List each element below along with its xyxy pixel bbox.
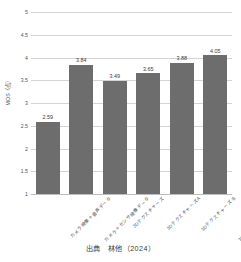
bar-slot: 3.49 (98, 12, 131, 194)
y-tick-label: 2 (25, 146, 28, 152)
y-tick-label: 1.5 (21, 168, 28, 174)
bar-slot: 3.88 (165, 12, 198, 194)
bar[interactable] (103, 81, 127, 194)
bar-value-label: 3.65 (132, 66, 165, 72)
y-tick-label: 4 (25, 55, 28, 61)
y-tick-label: 3.5 (21, 77, 28, 83)
y-tick-label: 5 (25, 9, 28, 15)
bar-slot: 3.84 (64, 12, 97, 194)
y-tick-label: 1 (25, 191, 28, 197)
bar[interactable] (170, 63, 194, 194)
plot-area: 11.522.533.544.55 2.593.843.493.653.884.… (31, 12, 232, 194)
source-caption: 出典 林他（2024） (0, 243, 241, 253)
bar-slot: 4.05 (199, 12, 232, 194)
bar[interactable] (203, 55, 227, 194)
bar-value-label: 4.05 (199, 48, 232, 54)
y-axis-title: MOS（点） (4, 68, 11, 116)
bars-layer: 2.593.843.493.653.884.05 (31, 12, 232, 194)
bar[interactable] (36, 122, 60, 194)
bar-value-label: 3.84 (64, 57, 97, 63)
x-tick-label: 3Dテクスチャーズ B (199, 195, 236, 232)
bar-slot: 3.65 (132, 12, 165, 194)
bar-value-label: 3.88 (165, 55, 198, 61)
bar-value-label: 2.59 (31, 114, 64, 120)
bar-slot: 2.59 (31, 12, 64, 194)
x-tick-label: カメラ映像＋音声データ (68, 195, 112, 239)
x-tick-label: 3DテクスチャーズA (165, 195, 201, 231)
y-tick-label: 4.5 (21, 32, 28, 38)
bar[interactable] (136, 73, 160, 194)
bar[interactable] (69, 65, 93, 194)
bar-value-label: 3.49 (98, 73, 131, 79)
y-tick-label: 2.5 (21, 123, 28, 129)
x-axis-labels: カメラ映像＋音声データカメラ＋センサ映像データ3Dテクスチャーズ3Dテクスチャー… (31, 195, 232, 241)
x-tick-label: 3DテクスチャーズA＋HMD (237, 195, 241, 242)
y-tick-label: 3 (25, 100, 28, 106)
bar-chart: MOS（点） 11.522.533.544.55 2.593.843.493.6… (0, 0, 241, 262)
